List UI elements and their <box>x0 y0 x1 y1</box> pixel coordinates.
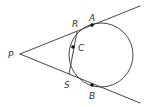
label-R: R <box>72 19 78 29</box>
label-S: S <box>64 80 70 90</box>
segment-RS <box>69 32 77 74</box>
tangent-line-lower <box>20 54 140 103</box>
circle <box>69 23 133 87</box>
point-C <box>71 45 75 49</box>
label-C: C <box>78 43 85 53</box>
label-B: B <box>89 91 95 101</box>
label-P: P <box>8 50 14 60</box>
tangent-circle-diagram: P R A C S B <box>0 0 148 107</box>
label-A: A <box>88 13 95 23</box>
point-A <box>90 23 94 27</box>
point-B <box>90 83 94 87</box>
